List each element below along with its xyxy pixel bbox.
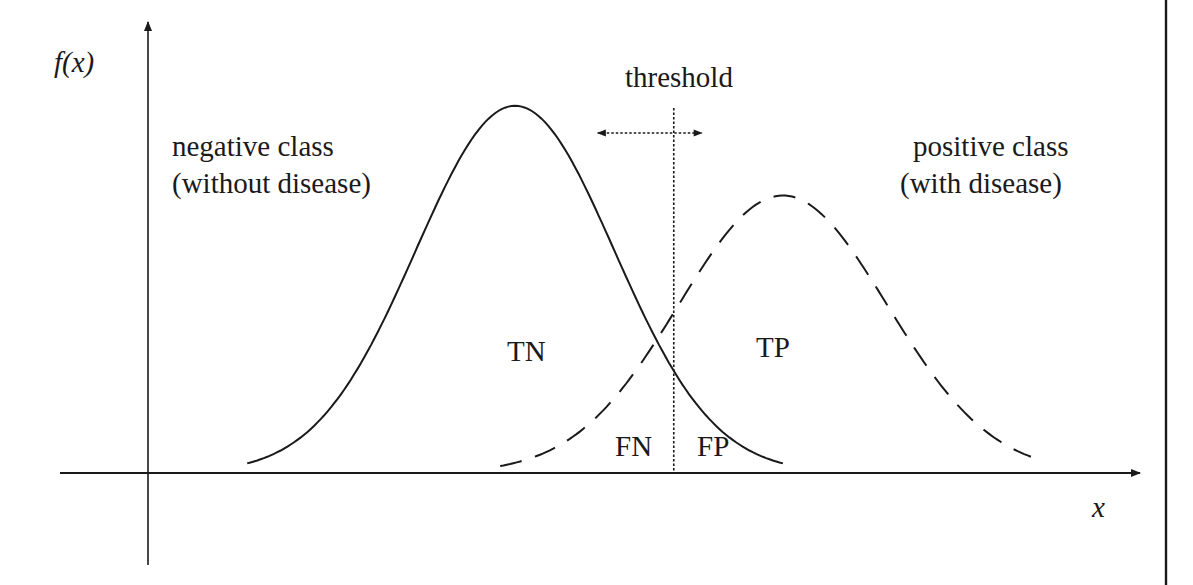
positive-class-label-line2: (with disease)	[900, 167, 1062, 200]
x-axis-label: x	[1091, 491, 1105, 523]
positive-class-label-line1: positive class	[913, 130, 1068, 162]
y-axis-label: f(x)	[54, 46, 94, 79]
region-fn-label: FN	[615, 430, 652, 462]
roc-threshold-diagram: f(x) x threshold negative class (without…	[0, 0, 1193, 585]
negative-class-label-line2: (without disease)	[172, 167, 371, 200]
region-tn-label: TN	[507, 335, 546, 367]
negative-class-label-line1: negative class	[172, 130, 334, 162]
region-fp-label: FP	[697, 430, 729, 462]
threshold-label: threshold	[625, 61, 733, 93]
region-tp-label: TP	[756, 331, 790, 363]
